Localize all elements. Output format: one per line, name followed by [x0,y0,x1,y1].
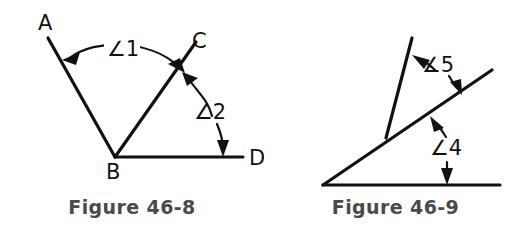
figure-sheet: ∠1 ∠2 A B C D Figure 46-8 [0,0,527,238]
angle-2-arrowhead-upper [182,72,198,86]
point-label-a: A [38,11,53,35]
diagonal-ray [323,70,492,185]
angle-2-label: ∠2 [194,100,226,124]
figure-46-9-caption: Figure 46-9 [264,196,527,218]
figure-46-8-caption: Figure 46-8 [0,196,264,218]
point-label-c: C [192,29,207,53]
figure-46-9-panel: ∠5 ∠4 Figure 46-9 [264,0,527,238]
point-label-b: B [106,160,120,184]
figure-46-8-panel: ∠1 ∠2 A B C D Figure 46-8 [0,0,264,238]
steep-ray [386,38,412,138]
angle-5-label: ∠5 [422,53,454,77]
angle-2-arrowhead-lower [217,140,229,157]
angle-4-label: ∠4 [430,136,462,160]
angle-4-arrowhead-lower [441,168,453,185]
angle-1-label: ∠1 [107,37,139,61]
point-label-d: D [249,146,264,170]
angle-1-arrowhead-left [62,52,80,65]
